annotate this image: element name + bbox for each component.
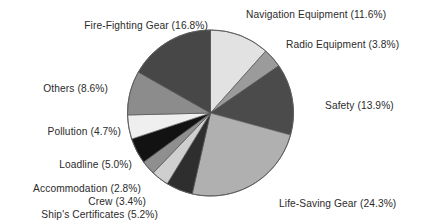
- pie-label-life-saving-gear: Life-Saving Gear (24.3%): [279, 198, 396, 210]
- pie-label-pollution: Pollution (4.7%): [47, 126, 121, 138]
- pie-label-ships-certificates: Ship's Certificates (5.2%): [41, 209, 158, 221]
- pie-slice-group: [127, 30, 293, 196]
- pie-label-crew: Crew (3.4%): [88, 196, 146, 208]
- pie-label-loadline: Loadline (5.0%): [59, 159, 132, 171]
- pie-label-accommodation: Accommodation (2.8%): [33, 183, 141, 195]
- pie-label-radio-equipment: Radio Equipment (3.8%): [286, 39, 399, 51]
- pie-label-safety: Safety (13.9%): [325, 100, 394, 112]
- chart-title: [0, 0, 426, 1]
- pie-chart-figure: Navigation Equipment (11.6%) Radio Equip…: [0, 0, 426, 224]
- pie-label-others: Others (8.6%): [43, 83, 108, 95]
- pie-label-navigation-equipment: Navigation Equipment (11.6%): [246, 9, 386, 21]
- pie-label-fire-fighting-gear: Fire-Fighting Gear (16.8%): [84, 20, 208, 32]
